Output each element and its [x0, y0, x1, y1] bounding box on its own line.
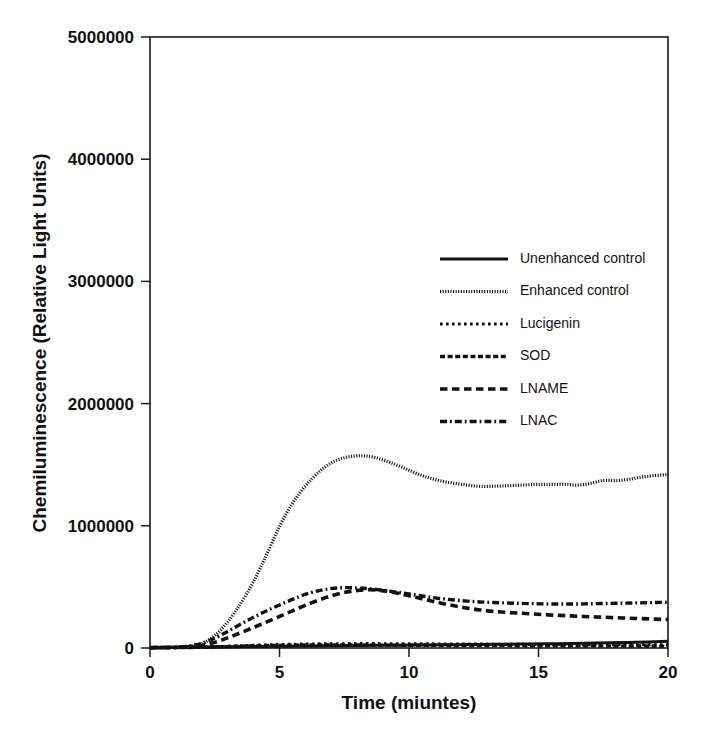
legend-label-lname: LNAME — [520, 380, 568, 396]
y-axis-title: Chemiluminescence (Relative Light Units) — [29, 153, 50, 532]
y-tick-label: 2000000 — [68, 395, 134, 414]
chart-figure: 010000002000000300000040000005000000 051… — [0, 0, 708, 741]
x-axis-title: Time (miuntes) — [342, 692, 477, 713]
legend-label-enhanced-control: Enhanced control — [520, 282, 629, 298]
x-tick-label: 5 — [275, 663, 284, 682]
x-tick-label: 15 — [529, 663, 548, 682]
y-tick-label: 0 — [125, 639, 134, 658]
y-tick-label: 1000000 — [68, 517, 134, 536]
x-tick-label: 10 — [400, 663, 419, 682]
legend-label-lnac: LNAC — [520, 412, 557, 428]
x-tick-label: 20 — [659, 663, 678, 682]
legend-label-unenhanced-control: Unenhanced control — [520, 250, 645, 266]
legend-label-sod: SOD — [520, 347, 550, 363]
line-chart: 010000002000000300000040000005000000 051… — [0, 0, 708, 741]
y-tick-label: 3000000 — [68, 272, 134, 291]
legend-label-lucigenin: Lucigenin — [520, 315, 580, 331]
y-tick-label: 5000000 — [68, 28, 134, 47]
y-tick-label: 4000000 — [68, 150, 134, 169]
x-tick-label: 0 — [145, 663, 154, 682]
chart-background — [0, 0, 708, 741]
